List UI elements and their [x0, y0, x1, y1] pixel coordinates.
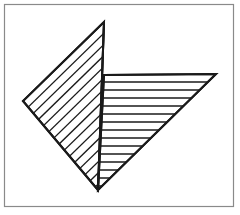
figure-page: [0, 0, 240, 215]
line-art-diagram: [0, 0, 240, 215]
